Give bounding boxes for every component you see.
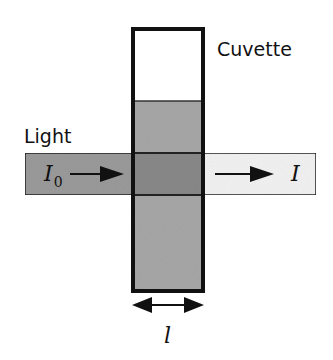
path-length-double-arrow-icon <box>132 297 204 313</box>
cuvette-empty-region <box>133 29 203 101</box>
incident-intensity-symbol: I <box>43 161 54 186</box>
path-length-label: l <box>164 323 171 348</box>
light-label: Light <box>24 125 71 147</box>
beer-lambert-diagram: Cuvette Light I0 I l <box>0 0 333 360</box>
transmitted-intensity-label: I <box>290 161 301 186</box>
beam-overlap-region <box>133 153 203 195</box>
cuvette-label: Cuvette <box>217 38 292 60</box>
incident-intensity-subscript: 0 <box>54 174 63 190</box>
